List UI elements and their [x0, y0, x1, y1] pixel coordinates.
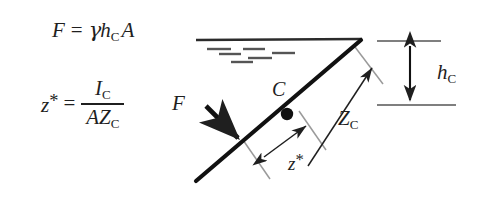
- eq-zstar-denominator-subscript: C: [111, 115, 120, 130]
- eq-zstar-lhs: z*: [41, 92, 58, 116]
- force-arrow-label: F: [172, 93, 185, 114]
- eq-force-depth-subscript: C: [111, 29, 120, 44]
- slant-distance-label: ZC: [338, 108, 358, 131]
- centroid-depth-label: hC: [437, 62, 456, 85]
- eq-zstar-numerator-symbol: I: [95, 76, 102, 100]
- equation-center-of-pressure: z* = IC AZC: [41, 77, 124, 131]
- slant-distance-symbol: Z: [338, 106, 350, 130]
- centroid-depth-subscript: C: [448, 71, 457, 86]
- eq-force-area: A: [121, 18, 134, 42]
- slant-distance-subscript: C: [350, 117, 359, 132]
- offset-star: *: [295, 150, 303, 169]
- eq-zstar-numerator-subscript: C: [102, 87, 111, 102]
- centroid-dot: [281, 108, 293, 120]
- offset-label: z*: [288, 152, 304, 173]
- hydrostatic-force-figure: F=γhCA z* = IC AZC F C ZC z* hC: [0, 0, 477, 202]
- centroid-label: C: [272, 79, 285, 99]
- eq-force-depth: h: [100, 18, 111, 42]
- force-arrow: [206, 106, 238, 138]
- eq-zstar-denominator-area: A: [86, 105, 99, 129]
- equation-resultant-force: F=γhCA: [52, 20, 134, 43]
- centroid-depth-symbol: h: [437, 60, 448, 84]
- eq-force-lhs: F: [52, 18, 65, 42]
- eq-force-equals: =: [71, 18, 83, 42]
- tick-at-surface: [355, 47, 383, 84]
- tick-at-pressure-center: [243, 140, 270, 179]
- free-surface-line: [196, 39, 362, 40]
- free-surface-hatch-marks: [207, 49, 295, 62]
- eq-zstar-numerator: IC: [90, 77, 116, 102]
- eq-zstar-lhs-star: *: [49, 91, 58, 111]
- eq-zstar-lhs-symbol: z: [41, 93, 49, 117]
- eq-zstar-equals: =: [63, 93, 75, 114]
- eq-zstar-denominator: AZC: [81, 106, 124, 131]
- eq-zstar-fraction: IC AZC: [81, 77, 124, 131]
- eq-zstar-denominator-symbol: Z: [99, 105, 111, 129]
- inclined-plate: [196, 40, 361, 181]
